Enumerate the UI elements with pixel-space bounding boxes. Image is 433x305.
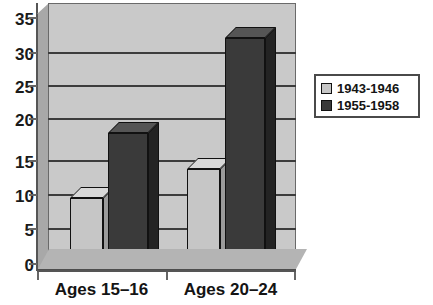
legend-item-1943-1946[interactable]: 1943-1946 bbox=[321, 80, 413, 97]
y-tick-mark-20 bbox=[29, 118, 37, 120]
bar-side bbox=[265, 27, 276, 271]
bar-1955-1958-ages-15-16[interactable] bbox=[108, 3, 148, 271]
legend: 1943-1946 1955-1958 bbox=[314, 74, 420, 118]
legend-label-1943-1946: 1943-1946 bbox=[337, 82, 399, 95]
x-tick-mark-left bbox=[37, 272, 39, 280]
y-tick-mark-30 bbox=[29, 52, 37, 54]
y-tick-label-20: 20 bbox=[4, 112, 34, 129]
legend-label-1955-1958: 1955-1958 bbox=[337, 99, 399, 112]
legend-swatch-icon-1943-1946 bbox=[321, 83, 332, 94]
y-tick-mark-10 bbox=[29, 194, 37, 196]
y-tick-label-15: 15 bbox=[4, 154, 34, 171]
y-tick-label-5: 5 bbox=[4, 222, 34, 239]
x-axis-label-ages-15-16: Ages 15–16 bbox=[37, 281, 166, 298]
bar-1943-1946-ages-20-24[interactable] bbox=[187, 3, 220, 271]
bar-1943-1946-ages-15-16[interactable] bbox=[70, 3, 103, 271]
plot-side-edge bbox=[37, 14, 38, 271]
y-tick-mark-35 bbox=[29, 17, 37, 19]
chart-figure: 35 30 25 20 15 10 5 0 bbox=[0, 0, 433, 305]
y-tick-mark-5 bbox=[29, 228, 37, 230]
bar-side bbox=[148, 122, 159, 271]
bar-1955-1958-ages-20-24[interactable] bbox=[225, 3, 265, 271]
plot-area bbox=[37, 3, 307, 271]
bar-front bbox=[225, 38, 265, 271]
x-axis-label-ages-20-24: Ages 20–24 bbox=[166, 281, 295, 298]
y-tick-label-25: 25 bbox=[4, 79, 34, 96]
y-tick-mark-25 bbox=[29, 85, 37, 87]
y-axis: 35 30 25 20 15 10 5 0 bbox=[0, 0, 34, 305]
legend-swatch-icon-1955-1958 bbox=[321, 100, 332, 111]
y-tick-label-0: 0 bbox=[4, 257, 34, 274]
x-tick-mark-right bbox=[294, 272, 296, 280]
y-tick-label-10: 10 bbox=[4, 188, 34, 205]
y-tick-label-35: 35 bbox=[4, 11, 34, 28]
plot-floor bbox=[37, 249, 307, 271]
legend-item-1955-1958[interactable]: 1955-1958 bbox=[321, 97, 413, 114]
x-tick-mark-middle bbox=[166, 272, 168, 280]
y-tick-mark-0 bbox=[29, 263, 37, 265]
y-tick-mark-15 bbox=[29, 160, 37, 162]
y-tick-label-30: 30 bbox=[4, 46, 34, 63]
